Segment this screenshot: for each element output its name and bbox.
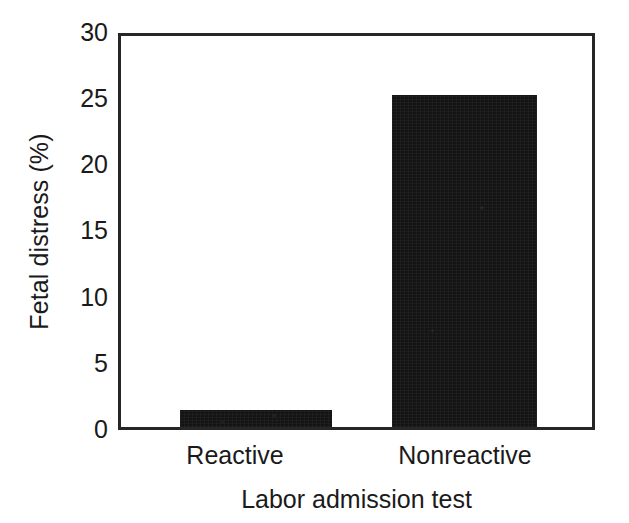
x-tick-label-nonreactive: Nonreactive — [360, 441, 570, 470]
y-tick-label-15: 15 — [50, 216, 108, 245]
y-tick-label-25: 25 — [50, 84, 108, 113]
plot-area — [121, 36, 592, 427]
bar-reactive — [180, 410, 332, 427]
bar-chart-figure: Fetal distress (%) 30 25 20 15 10 5 0 Re… — [0, 0, 629, 523]
y-tick-label-20: 20 — [50, 150, 108, 179]
y-tick-label-0: 0 — [50, 415, 108, 444]
x-tick-label-reactive: Reactive — [150, 441, 320, 470]
y-tick-label-10: 10 — [50, 283, 108, 312]
x-axis-title: Labor admission test — [118, 485, 595, 514]
plot-frame — [118, 33, 595, 430]
bar-nonreactive — [392, 95, 537, 427]
y-tick-label-5: 5 — [50, 349, 108, 378]
y-tick-label-30: 30 — [50, 18, 108, 47]
